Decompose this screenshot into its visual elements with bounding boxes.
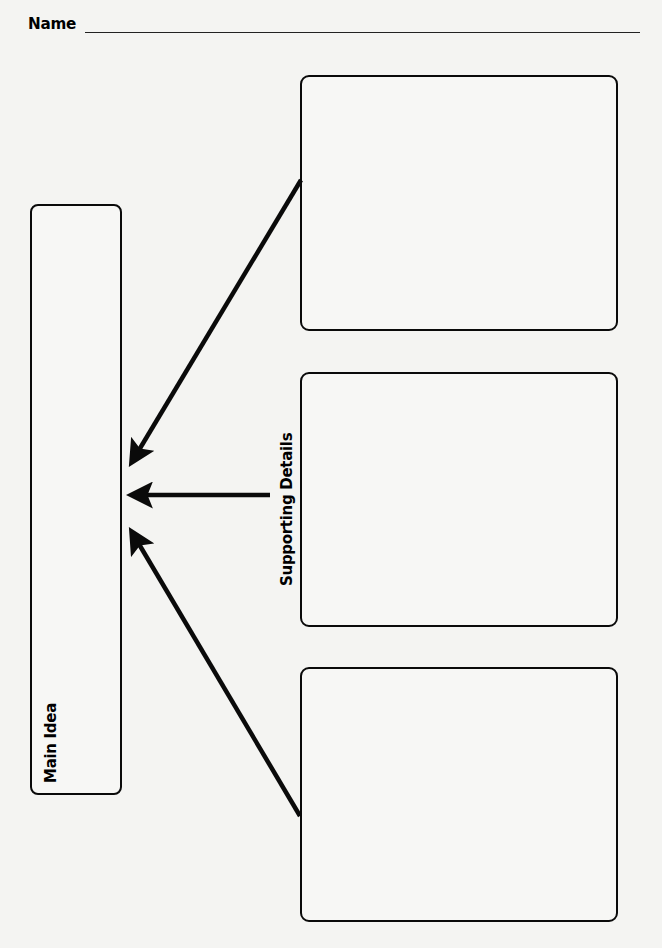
supporting-detail-box-2[interactable] [300,372,618,627]
name-field-row: Name [28,14,640,34]
supporting-details-label: Supporting Details [278,433,296,586]
arrow-from-detail-3 [133,534,300,816]
supporting-detail-box-3[interactable] [300,667,618,922]
name-label: Name [28,14,76,33]
supporting-detail-box-1[interactable] [300,75,618,331]
name-write-line[interactable] [85,32,640,33]
arrow-from-detail-1 [133,180,301,460]
main-idea-label: Main Idea [42,703,60,783]
